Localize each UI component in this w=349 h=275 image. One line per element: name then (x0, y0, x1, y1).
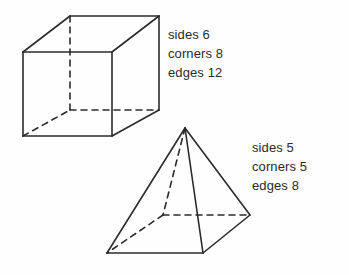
cube-figure (23, 16, 159, 136)
figure-page: sides 6 corners 8 edges 12 sides 5 corne… (0, 0, 349, 275)
pyramid-edges-label: edges 8 (252, 176, 307, 195)
pyramid-figure (107, 128, 250, 253)
cube-edges-label: edges 12 (168, 63, 223, 82)
cube-hidden-edge-bottom-left-diagonal (23, 110, 70, 136)
cube-sides-label: sides 6 (168, 25, 223, 44)
cube-edge-bottom-right-diagonal (112, 110, 159, 136)
cube-edge-top-right-diagonal (112, 16, 159, 52)
pyramid-label-block: sides 5 corners 5 edges 8 (252, 138, 307, 195)
pyramid-edge-apex-front-left (107, 128, 185, 253)
pyramid-edge-apex-front-right (185, 128, 203, 253)
pyramid-hidden-edge-apex-back (163, 128, 185, 215)
cube-edge-top-left-diagonal (23, 16, 70, 52)
pyramid-corners-label: corners 5 (252, 157, 307, 176)
pyramid-edge-base-front-right (203, 215, 250, 253)
pyramid-sides-label: sides 5 (252, 138, 307, 157)
pyramid-hidden-edge-base-back-left (107, 215, 163, 253)
pyramid-edge-apex-right (185, 128, 250, 215)
cube-label-block: sides 6 corners 8 edges 12 (168, 25, 223, 82)
cube-corners-label: corners 8 (168, 44, 223, 63)
